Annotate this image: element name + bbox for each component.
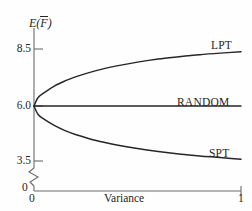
y-axis-title-variable: F (40, 16, 47, 29)
x-max-label: 1 (238, 193, 244, 205)
y-tick-label-3-5: 3.5 (6, 155, 31, 167)
series-label-spt: SPT (209, 148, 229, 160)
y-tick-label-6-0: 6.0 (6, 100, 31, 112)
series-label-lpt: LPT (211, 40, 232, 52)
x-origin-label: 0 (29, 193, 35, 205)
y-axis-title: E(F) (29, 16, 52, 29)
y-axis-title-close-paren: ) (48, 16, 52, 30)
series-label-random: RANDOM (177, 97, 229, 109)
chart-figure: E(F) 8.5 6.0 3.5 0 0 Variance 1 LPT RAND… (0, 0, 252, 211)
y-axis-break-icon (29, 168, 38, 186)
x-axis-title: Variance (104, 193, 144, 205)
y-tick-label-8-5: 8.5 (6, 43, 31, 55)
y-zero-label: 0 (22, 182, 28, 194)
